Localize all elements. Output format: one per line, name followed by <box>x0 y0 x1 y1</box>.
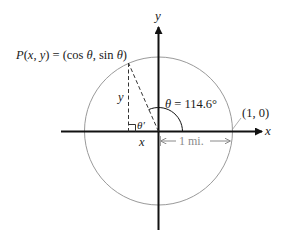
reference-angle-label: θ′ <box>137 119 145 131</box>
point-label: P(x, y) = (cos θ, sin θ) <box>15 48 127 62</box>
x-axis-label: x <box>264 123 271 138</box>
angle-label: θ = 114.6° <box>165 97 217 111</box>
radius-label: 1 mi. <box>179 134 204 148</box>
y-leg-label: y <box>116 90 124 104</box>
right-angle-marker <box>129 125 136 132</box>
unit-circle-diagram: y x P(x, y) = (cos θ, sin θ) θ = 114.6° … <box>0 0 287 242</box>
y-axis-label: y <box>153 8 161 23</box>
unit-point-label: (1, 0) <box>242 106 269 120</box>
unit-point-leader <box>232 118 241 130</box>
x-leg-label: x <box>138 135 145 149</box>
theta-arc <box>149 108 183 132</box>
